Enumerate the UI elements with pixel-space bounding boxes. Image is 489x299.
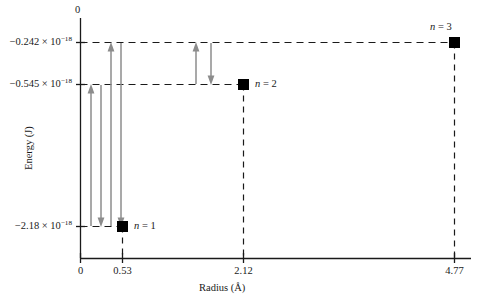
transition-emit-3-to-2 [208,43,215,85]
marker-n2 [238,79,249,90]
x-tick-label-212: 2.12 [224,266,264,277]
level-label-n3: n = 3 [430,22,452,33]
level-label-n1: n = 1 [134,221,156,232]
marker-n1 [117,221,128,232]
transition-absorb-2-to-3 [193,42,200,84]
y-axis-zero-label: 0 [75,5,80,16]
x-tick-label-0: 0 [61,266,101,277]
x-tick-label-053: 0.53 [103,266,143,277]
marker-n3 [449,37,460,48]
x-tick-label-477: 4.77 [435,266,475,277]
transition-emit-2-to-1 [98,85,105,227]
y-tick-label-n1: −2.18 × 10−18 [0,221,72,232]
y-tick-label-n2: −0.545 × 10−18 [0,79,72,90]
plot-canvas [0,0,489,299]
transition-absorb-1-to-2 [88,84,95,226]
y-tick-label-n3: −0.242 × 10−18 [0,37,72,48]
transition-emit-3-to-1 [118,43,125,227]
y-axis-title: Energy (J) [24,126,35,170]
level-label-n2: n = 2 [255,79,277,90]
energy-level-diagram: 0 −0.242 × 10−18 −0.545 × 10−18 −2.18 × … [0,0,489,299]
transition-absorb-1-to-3 [108,42,115,226]
x-axis-title: Radius (Å) [199,283,245,294]
